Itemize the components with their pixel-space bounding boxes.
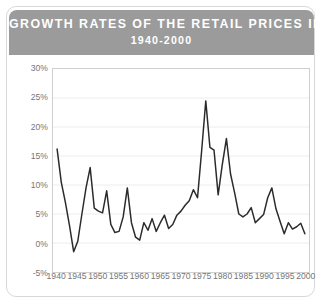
x-axis-tick-label: 1975: [192, 271, 211, 281]
chart-title: GROWTH RATES OF THE RETAIL PRICES INDEX: [9, 17, 314, 32]
y-axis-tick-label: 20%: [14, 122, 48, 132]
x-axis-tick-label: 1980: [213, 271, 232, 281]
line-chart-svg: [53, 69, 309, 272]
y-axis-tick-label: 15%: [14, 151, 48, 161]
x-axis-tick-label: 1940: [47, 271, 66, 281]
x-axis-tick-label: 1955: [109, 271, 128, 281]
chart-card: GROWTH RATES OF THE RETAIL PRICES INDEX …: [6, 6, 315, 297]
gridlines: [53, 98, 309, 243]
y-axis-tick-label: 25%: [14, 92, 48, 102]
y-axis-tick-label: 30%: [14, 63, 48, 73]
x-axis-tick-label: 1945: [67, 271, 86, 281]
x-axis-tick-label: 1970: [171, 271, 190, 281]
y-axis-tick-label: 5%: [14, 209, 48, 219]
chart-plot-area: -5%0%5%10%15%20%25%30% 19401945195019551…: [7, 55, 314, 295]
chart-header: GROWTH RATES OF THE RETAIL PRICES INDEX …: [9, 10, 314, 55]
x-axis-labels: 1940194519501955196019651970197519801985…: [7, 271, 314, 291]
x-axis-tick-label: 1995: [275, 271, 294, 281]
x-axis-tick-label: 1950: [88, 271, 107, 281]
y-axis-labels: -5%0%5%10%15%20%25%30%: [7, 55, 48, 295]
x-axis-tick-label: 1965: [151, 271, 170, 281]
y-axis-tick-label: 10%: [14, 180, 48, 190]
y-axis-tick-label: 0%: [14, 239, 48, 249]
plot-frame: [52, 68, 310, 273]
chart-subtitle: 1940-2000: [9, 33, 314, 47]
x-axis-tick-label: 1960: [130, 271, 149, 281]
data-line-series-0: [57, 101, 305, 252]
x-axis-tick-label: 1990: [255, 271, 274, 281]
x-axis-tick-label: 2000: [296, 271, 315, 281]
x-axis-tick-label: 1985: [234, 271, 253, 281]
